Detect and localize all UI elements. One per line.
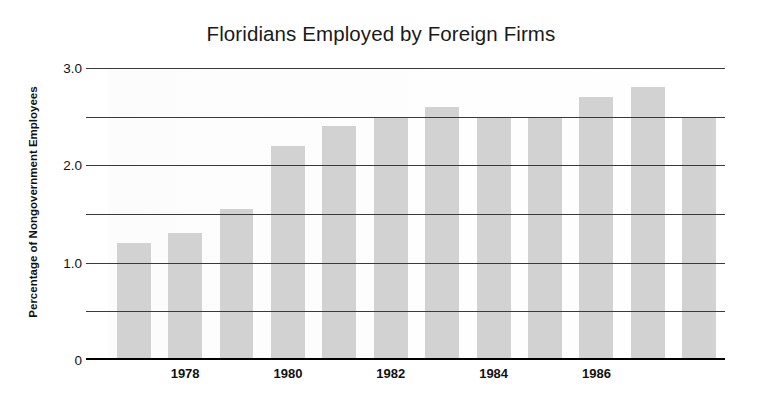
x-axis-tick-labels: 19781980198219841986 [108,364,725,388]
gridline [108,311,725,312]
gridline [108,117,725,118]
y-axis-tick [86,358,108,360]
bar[interactable] [374,117,408,360]
x-axis-line [108,358,725,360]
y-axis-tick [86,263,108,264]
chart-figure: Floridians Employed by Foreign Firms Per… [0,0,762,403]
chart-title: Floridians Employed by Foreign Firms [0,22,762,46]
y-axis-tick [86,117,108,118]
gridline [108,214,725,215]
bar[interactable] [425,107,459,360]
bar[interactable] [631,87,665,360]
bar[interactable] [477,117,511,360]
plot-area: 3.02.01.00 [108,68,725,360]
bar[interactable] [682,117,716,360]
y-axis-tick [86,68,108,69]
gridline [108,263,725,264]
y-axis-tick-label: 3.0 [63,61,82,76]
bar[interactable] [168,233,202,360]
bar[interactable] [271,146,305,360]
bar[interactable] [322,126,356,360]
y-axis-tick-label: 2.0 [63,158,82,173]
y-axis-tick-label: 1.0 [63,255,82,270]
y-axis-tick [86,311,108,312]
x-axis-tick-label: 1982 [376,366,405,381]
x-axis-tick-label: 1978 [171,366,200,381]
bar[interactable] [579,97,613,360]
bar[interactable] [117,243,151,360]
x-axis-tick-label: 1986 [582,366,611,381]
gridline [108,165,725,166]
y-axis-tick [86,214,108,215]
gridline [108,68,725,69]
y-axis-tick [86,165,108,166]
y-axis-title: Percentage of Nongovernment Employees [27,37,39,367]
x-axis-tick-label: 1984 [479,366,508,381]
x-axis-tick-label: 1980 [273,366,302,381]
y-axis-tick-label: 0 [74,353,82,368]
bar[interactable] [528,117,562,360]
bar[interactable] [220,209,254,360]
